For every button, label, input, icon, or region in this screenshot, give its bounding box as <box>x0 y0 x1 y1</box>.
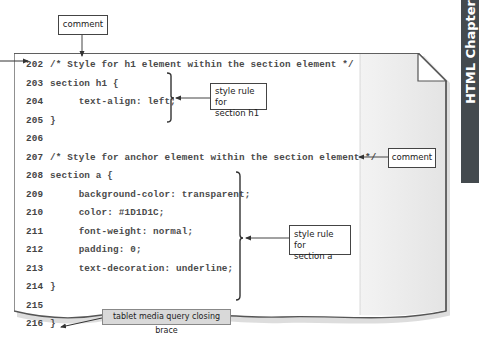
code-line: 209 background-color: transparent; <box>26 189 251 201</box>
callout-text: comment <box>392 152 432 162</box>
line-number: 214 <box>26 281 50 293</box>
callout-text: section h1 <box>215 108 262 119</box>
code-line: 208section a { <box>26 170 113 182</box>
line-number: 203 <box>26 78 50 90</box>
line-text: color: #1D1D1C; <box>50 207 165 218</box>
line-text: /* Style for h1 element within the secti… <box>50 59 354 70</box>
line-number: 207 <box>26 152 50 164</box>
code-line: 215 <box>26 300 50 312</box>
line-number: 206 <box>26 133 50 145</box>
line-number: 209 <box>26 189 50 201</box>
callout-text: comment <box>63 19 103 29</box>
line-text: } <box>50 115 56 126</box>
chapter-side-tab: HTML Chapter <box>461 0 479 183</box>
code-line: 202/* Style for h1 element within the se… <box>26 59 354 71</box>
code-line: 204 text-align: left; <box>26 96 176 108</box>
code-line: 211 font-weight: normal; <box>26 226 193 238</box>
code-line: 212 padding: 0; <box>26 244 142 256</box>
line-text: text-align: left; <box>50 96 176 107</box>
style-rule-a-callout: style rule for section a <box>289 225 351 255</box>
code-line: 214} <box>26 281 56 293</box>
line-number: 210 <box>26 207 50 219</box>
code-line: 203section h1 { <box>26 78 119 90</box>
callout-text: style rule for <box>215 86 262 108</box>
code-line: 206 <box>26 133 50 145</box>
line-number: 205 <box>26 115 50 127</box>
code-line: 207/* Style for anchor element within th… <box>26 152 377 164</box>
line-number: 202 <box>26 59 50 71</box>
comment-callout-top: comment <box>58 15 108 35</box>
line-number: 213 <box>26 263 50 275</box>
callout-text: style rule for <box>294 229 346 251</box>
code-line: 216} <box>26 318 56 330</box>
line-number: 211 <box>26 226 50 238</box>
code-line: 213 text-decoration: underline; <box>26 263 233 275</box>
line-text: section h1 { <box>50 78 119 89</box>
line-text: section a { <box>50 170 113 181</box>
code-line: 210 color: #1D1D1C; <box>26 207 165 219</box>
closing-brace-callout: tablet media query closing brace <box>102 309 231 325</box>
line-text: font-weight: normal; <box>50 226 193 237</box>
line-text: } <box>50 318 56 329</box>
line-text: /* Style for anchor element within the s… <box>50 152 377 163</box>
callout-text: tablet media query closing brace <box>113 312 220 335</box>
line-number: 216 <box>26 318 50 330</box>
chapter-side-tab-label: HTML Chapter <box>463 0 478 104</box>
line-text: background-color: transparent; <box>50 189 251 200</box>
callout-text: section a <box>294 251 346 262</box>
line-number: 215 <box>26 300 50 312</box>
comment-callout-right: comment <box>388 148 436 168</box>
line-number: 204 <box>26 96 50 108</box>
line-text: padding: 0; <box>50 244 142 255</box>
line-number: 212 <box>26 244 50 256</box>
line-text: } <box>50 281 56 292</box>
code-line: 205} <box>26 115 56 127</box>
line-text: text-decoration: underline; <box>50 263 233 274</box>
style-rule-h1-callout: style rule for section h1 <box>210 83 267 110</box>
line-number: 208 <box>26 170 50 182</box>
